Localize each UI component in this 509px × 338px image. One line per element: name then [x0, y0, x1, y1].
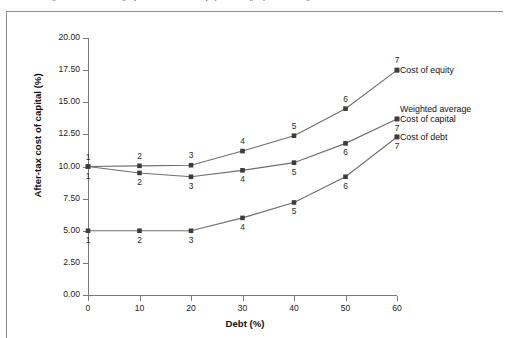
data-point-marker — [189, 228, 194, 233]
data-point-marker — [343, 141, 348, 146]
point-label: 1 — [81, 171, 95, 181]
point-label: 1 — [81, 235, 95, 245]
point-label: 4 — [236, 174, 250, 184]
legend-label-cost-of-equity: Cost of equity — [400, 65, 454, 76]
point-label: 2 — [133, 177, 147, 187]
chart-plot-area: 0.002.505.007.5010.0012.5015.0017.5020.0… — [0, 0, 509, 338]
legend-label-wacc-line2: Cost of capital — [400, 114, 456, 125]
point-label: 6 — [339, 181, 353, 191]
data-point-marker — [86, 228, 91, 233]
data-point-marker — [137, 228, 142, 233]
data-point-marker — [189, 163, 194, 168]
legend-marker-1 — [395, 117, 400, 122]
data-point-marker — [343, 174, 348, 179]
point-label: 4 — [236, 222, 250, 232]
point-label: 2 — [133, 151, 147, 161]
legend-marker-0 — [395, 68, 400, 73]
point-label: 3 — [184, 150, 198, 160]
figure-page: of debt financing and, second, increasin… — [0, 0, 509, 338]
legend-label-cost-of-debt: Cost of debt — [400, 132, 447, 143]
data-point-marker — [240, 216, 245, 221]
data-point-marker — [86, 164, 91, 169]
data-point-marker — [189, 174, 194, 179]
point-label: 2 — [133, 235, 147, 245]
legend-label-wacc-line1: Weighted average — [400, 104, 471, 115]
point-label: 5 — [287, 206, 301, 216]
data-point-marker — [137, 171, 142, 176]
point-label: 6 — [339, 147, 353, 157]
data-point-marker — [240, 168, 245, 173]
point-label: 5 — [287, 121, 301, 131]
point-label: 3 — [184, 235, 198, 245]
point-label: 4 — [236, 136, 250, 146]
data-point-marker — [292, 160, 297, 165]
data-point-marker — [240, 149, 245, 154]
data-point-marker — [292, 200, 297, 205]
data-point-marker — [137, 164, 142, 169]
series-lines — [0, 0, 509, 338]
data-point-marker — [343, 106, 348, 111]
point-label: 5 — [287, 167, 301, 177]
point-label: 1 — [81, 152, 95, 162]
point-label: 7 — [390, 55, 404, 65]
legend-marker-2 — [395, 135, 400, 140]
point-label: 3 — [184, 181, 198, 191]
data-point-marker — [292, 133, 297, 138]
point-label: 6 — [339, 94, 353, 104]
